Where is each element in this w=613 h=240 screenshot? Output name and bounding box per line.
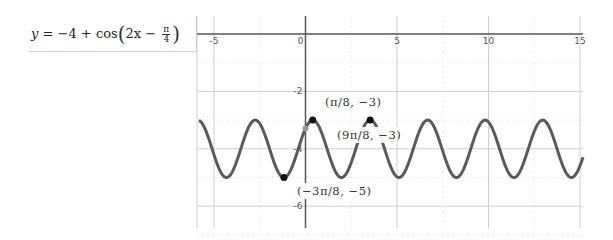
svg-text:-6: -6 bbox=[294, 201, 303, 211]
axes bbox=[197, 16, 583, 228]
minor-grid bbox=[197, 16, 583, 235]
svg-text:5: 5 bbox=[394, 36, 400, 46]
point-label-max-2: (9π/8, −3) bbox=[334, 127, 404, 143]
svg-text:10: 10 bbox=[483, 36, 495, 46]
svg-text:15: 15 bbox=[574, 36, 585, 46]
graph-canvas[interactable]: -5051015-2-4-6 bbox=[0, 0, 613, 240]
point-label-min: (−3π/8, −5) bbox=[294, 183, 374, 199]
svg-text:-2: -2 bbox=[294, 86, 303, 96]
point-label-max-1: (π/8, −3) bbox=[322, 94, 385, 110]
major-grid bbox=[197, 16, 583, 228]
svg-text:0: 0 bbox=[298, 36, 304, 46]
svg-text:-5: -5 bbox=[210, 36, 219, 46]
